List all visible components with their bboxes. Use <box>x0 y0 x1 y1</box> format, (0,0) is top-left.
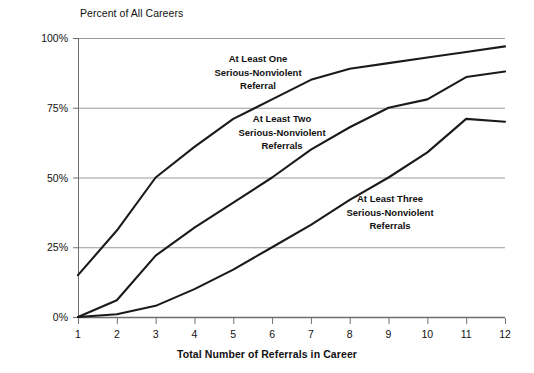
y-tick-label-25pct: 25% <box>26 242 68 252</box>
x-tick-label-3: 3 <box>144 329 168 339</box>
x-tick-label-2: 2 <box>105 329 129 339</box>
x-tick-label-5: 5 <box>221 329 245 339</box>
x-tick-label-6: 6 <box>260 329 284 339</box>
series-annotation-2-line-3: Referrals <box>202 139 362 153</box>
x-tick-label-10: 10 <box>415 329 439 339</box>
x-tick-label-9: 9 <box>377 329 401 339</box>
x-axis-title: Total Number of Referrals in Career <box>0 348 534 360</box>
x-tick-label-11: 11 <box>454 329 478 339</box>
x-tick-label-7: 7 <box>299 329 323 339</box>
y-tick-label-50pct: 50% <box>26 173 68 183</box>
y-tick-label-75pct: 75% <box>26 103 68 113</box>
y-tick-label-0pct: 0% <box>26 312 68 322</box>
x-tick-label-8: 8 <box>338 329 362 339</box>
series-annotation-3-line-2: Serious-Nonviolent <box>310 206 470 220</box>
series-annotation-1-line-2: Serious-Nonviolent <box>178 66 338 80</box>
series-annotation-2-line-1: At Least Two <box>202 112 362 126</box>
x-tick-label-1: 1 <box>66 329 90 339</box>
series-annotation-1-line-3: Referral <box>178 79 338 93</box>
series-annotation-3-line-3: Referrals <box>310 219 470 233</box>
series-annotation-1: At Least OneSerious-NonviolentReferral <box>178 52 338 93</box>
chart-container: Percent of All Careers 0%25%50%75%100% 1… <box>0 0 534 373</box>
series-annotation-2: At Least TwoSerious-NonviolentReferrals <box>202 112 362 153</box>
series-annotation-2-line-2: Serious-Nonviolent <box>202 126 362 140</box>
series-annotation-3-line-1: At Least Three <box>310 192 470 206</box>
series-annotation-1-line-1: At Least One <box>178 52 338 66</box>
series-annotation-3: At Least ThreeSerious-NonviolentReferral… <box>310 192 470 233</box>
x-tick-label-12: 12 <box>493 329 517 339</box>
x-tick-label-4: 4 <box>182 329 206 339</box>
y-tick-label-100pct: 100% <box>26 33 68 43</box>
